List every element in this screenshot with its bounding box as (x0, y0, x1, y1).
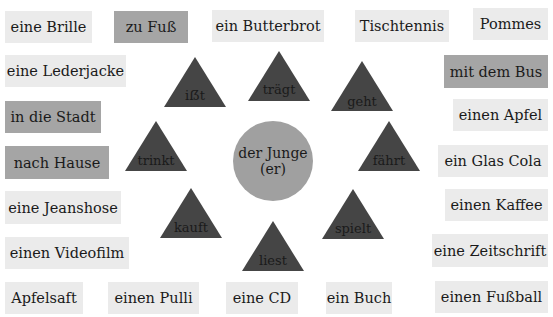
word-box-einen-kaffee[interactable]: einen Kaffee (445, 189, 548, 221)
word-box-einen-apfel[interactable]: einen Apfel (453, 99, 548, 131)
verb-label-faehrt: fährt (354, 153, 424, 168)
word-box-mit-dem-bus[interactable]: mit dem Bus (444, 55, 548, 88)
verb-label-isst: iẞt (160, 88, 230, 103)
word-box-eine-zeitschrift[interactable]: eine Zeitschrift (432, 234, 548, 267)
word-box-ein-butterbrot[interactable]: ein Butterbrot (212, 10, 324, 42)
word-box-ein-glas-cola[interactable]: ein Glas Cola (438, 145, 548, 177)
word-box-einen-fussball[interactable]: einen Fußball (435, 281, 548, 313)
word-box-eine-brille[interactable]: eine Brille (5, 11, 92, 43)
verb-label-kauft: kauft (156, 220, 226, 235)
word-box-eine-lederjacke[interactable]: eine Lederjacke (5, 55, 126, 87)
word-box-pommes[interactable]: Pommes (473, 8, 548, 40)
word-box-zu-fuss[interactable]: zu Fuß (114, 11, 188, 43)
verb-label-trinkt: trinkt (121, 153, 191, 168)
word-box-eine-cd[interactable]: eine CD (226, 282, 298, 314)
word-box-eine-jeanshose[interactable]: eine Jeanshose (5, 191, 121, 224)
word-box-in-die-stadt[interactable]: in die Stadt (5, 101, 101, 133)
word-box-tischtennis[interactable]: Tischtennis (355, 10, 449, 42)
verb-label-geht: geht (327, 94, 397, 109)
word-box-ein-buch[interactable]: ein Buch (326, 282, 392, 314)
word-box-einen-pulli[interactable]: einen Pulli (108, 282, 199, 314)
subject-label: der Junge (238, 145, 307, 161)
verb-label-spielt: spielt (318, 221, 388, 236)
subject-pronoun: (er) (260, 161, 286, 177)
word-box-einen-videofilm[interactable]: einen Videofilm (5, 237, 129, 269)
word-box-nach-hause[interactable]: nach Hause (5, 146, 109, 179)
word-box-apfelsaft[interactable]: Apfelsaft (5, 282, 83, 314)
verb-label-traegt: trägt (244, 82, 314, 97)
verb-label-liest: liest (238, 253, 308, 268)
subject-circle: der Junge (er) (233, 121, 313, 201)
